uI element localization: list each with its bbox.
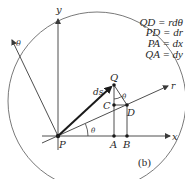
ds-label: ds bbox=[93, 87, 104, 97]
label-B: B bbox=[122, 139, 130, 150]
label-C: C bbox=[103, 100, 111, 111]
label-A: A bbox=[109, 139, 117, 150]
theta-angle-label-origin: θ bbox=[91, 127, 96, 135]
y-axis-label: y bbox=[55, 4, 62, 15]
label-Q: Q bbox=[110, 72, 118, 83]
theta-axis bbox=[12, 40, 58, 136]
point-B bbox=[125, 134, 129, 138]
theta-axis-label: θ bbox=[16, 39, 21, 48]
label-P: P bbox=[58, 139, 66, 150]
r-axis-label: r bbox=[171, 81, 176, 91]
theta-angle-label-q: θ bbox=[122, 93, 127, 101]
equation-QA: QA = dy bbox=[145, 48, 183, 60]
angle-arc-q bbox=[114, 97, 122, 100]
point-A bbox=[112, 134, 116, 138]
label-D: D bbox=[126, 107, 135, 118]
angle-arc-origin bbox=[86, 124, 89, 136]
polar-differential-diagram: y x r θ P Q C D A B ds θ θ QD = rdθ PD =… bbox=[0, 0, 185, 179]
point-C bbox=[112, 103, 116, 107]
point-P bbox=[56, 134, 60, 138]
point-Q bbox=[112, 83, 116, 87]
x-axis-label: x bbox=[172, 131, 178, 142]
figure-caption: (b) bbox=[138, 156, 151, 169]
